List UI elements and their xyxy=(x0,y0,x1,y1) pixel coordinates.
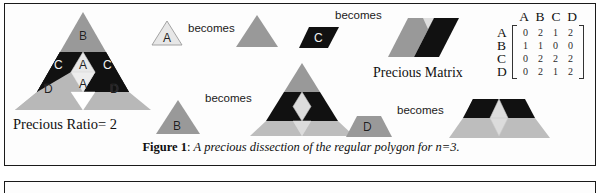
target-piece-a xyxy=(235,14,279,48)
target-piece-d xyxy=(448,98,552,140)
becomes-label-c: becomes xyxy=(335,10,382,22)
matrix-cell: 0 xyxy=(563,39,578,52)
matrix-row: 0 2 1 2 xyxy=(518,65,578,78)
matrix-column-headers: A B C D xyxy=(516,9,584,25)
matrix-row: 1 1 0 0 xyxy=(518,39,578,52)
main-label-b: B xyxy=(79,30,87,42)
matrix-body: A B C D 0 2 1 2 1 xyxy=(497,25,584,79)
matrix-cell: 0 xyxy=(518,26,533,39)
becomes-label-a: becomes xyxy=(188,23,235,35)
matrix-cell: 2 xyxy=(533,26,548,39)
matrix-values: 0 2 1 2 1 1 0 0 0 2 xyxy=(517,25,579,79)
source-piece-b-label: B xyxy=(173,120,181,132)
matrix-cell: 1 xyxy=(548,65,563,78)
main-label-a-lower: A xyxy=(79,78,87,90)
matrix-row-d: D xyxy=(497,65,512,78)
matrix-cell: 0 xyxy=(518,65,533,78)
matrix-col-c: C xyxy=(548,9,564,25)
matrix-col-b: B xyxy=(532,9,548,25)
main-label-c-left: C xyxy=(54,59,63,71)
matrix-bracket-right xyxy=(579,25,584,79)
matrix-col-d: D xyxy=(564,9,580,25)
matrix-cell: 1 xyxy=(533,39,548,52)
figure-page: B C C A A D D Precious Ratio= 2 A become… xyxy=(0,0,603,193)
figure-caption-sep: : xyxy=(187,140,194,154)
matrix-cell: 2 xyxy=(548,52,563,65)
matrix-row: 0 2 1 2 xyxy=(518,26,578,39)
source-piece-a-label: A xyxy=(163,32,171,44)
becomes-label-b: becomes xyxy=(205,93,252,105)
figure-stage: B C C A A D D Precious Ratio= 2 A become… xyxy=(5,4,597,167)
main-label-d-left: D xyxy=(44,83,53,95)
next-section-frame xyxy=(4,181,596,193)
precious-ratio-label: Precious Ratio= 2 xyxy=(13,117,117,132)
source-piece-d-label: D xyxy=(363,121,372,133)
main-label-c-right: C xyxy=(103,59,112,71)
target-b-top-gray xyxy=(284,63,320,92)
main-label-d-right: D xyxy=(110,83,119,95)
figure-caption-text: A precious dissection of the regular pol… xyxy=(194,140,460,154)
matrix-cell: 2 xyxy=(533,52,548,65)
matrix-cell: 1 xyxy=(548,26,563,39)
figure-frame: B C C A A D D Precious Ratio= 2 A become… xyxy=(4,3,596,166)
matrix-col-a: A xyxy=(516,9,532,25)
matrix-cell: 2 xyxy=(563,26,578,39)
figure-caption-prefix: Figure 1 xyxy=(142,140,187,154)
precious-matrix-label: Precious Matrix xyxy=(373,66,463,80)
main-label-a-upper: A xyxy=(79,59,87,71)
source-piece-c-label: C xyxy=(314,32,323,44)
matrix-cell: 2 xyxy=(533,65,548,78)
precious-matrix: A B C D A B C D 0 2 xyxy=(497,9,584,79)
target-piece-c xyxy=(387,17,461,59)
matrix-cell: 2 xyxy=(563,52,578,65)
matrix-cell: 1 xyxy=(518,39,533,52)
matrix-cell: 0 xyxy=(518,52,533,65)
matrix-row-headers: A B C D xyxy=(497,25,512,79)
matrix-cell: 0 xyxy=(548,39,563,52)
target-piece-b xyxy=(248,62,356,138)
figure-caption: Figure 1: A precious dissection of the r… xyxy=(5,140,597,155)
matrix-cell: 2 xyxy=(563,65,578,78)
matrix-row: 0 2 2 2 xyxy=(518,52,578,65)
becomes-label-d: becomes xyxy=(397,105,444,117)
